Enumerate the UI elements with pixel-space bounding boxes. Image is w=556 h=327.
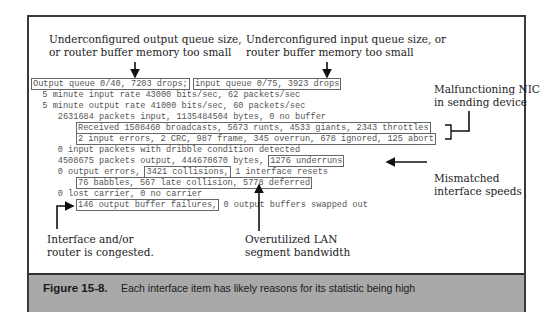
diagram-panel: Underconfigured output queue size, or ro… <box>29 17 524 273</box>
figure-label: Figure 15-8. <box>43 282 108 294</box>
figure-frame: Underconfigured output queue size, or ro… <box>27 15 526 312</box>
callout-arrows <box>29 17 524 273</box>
arrow-congested-icon <box>57 206 73 229</box>
bracket-nic-icon <box>451 111 469 131</box>
figure-caption: Each interface item has likely reasons f… <box>121 282 415 294</box>
caption-band: Figure 15-8. Each interface item has lik… <box>29 273 524 312</box>
